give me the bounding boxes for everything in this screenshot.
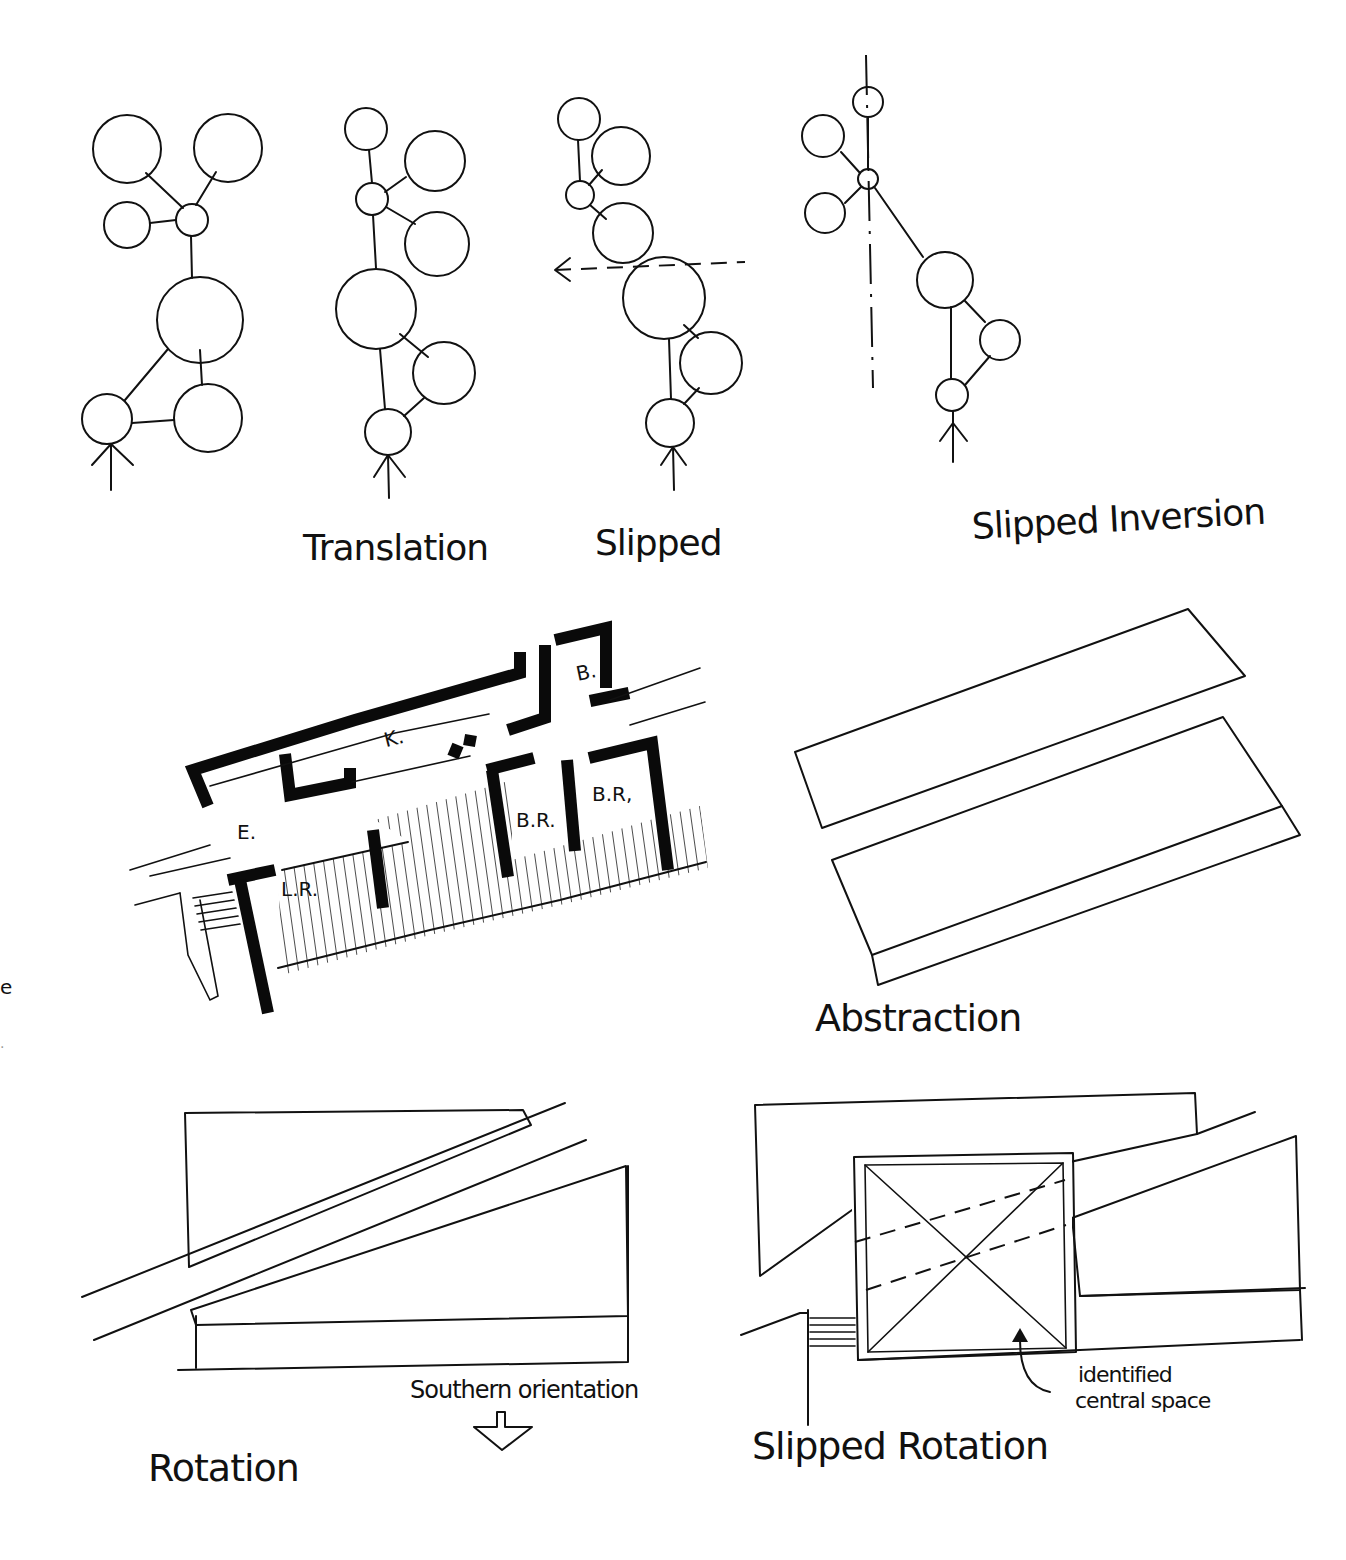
floor-plan <box>130 628 708 1013</box>
room-bedroom-2: B.R, <box>592 782 632 806</box>
bubble-diagram-translation <box>336 108 475 498</box>
bubble-diagram-slipped <box>555 98 745 490</box>
margin-fragment-1: e <box>0 975 11 999</box>
bubble-diagram-slipped-inversion <box>802 55 1020 462</box>
sketch-sheet <box>0 0 1346 1560</box>
label-slipped: Slipped <box>595 522 722 563</box>
annotation-southern-orientation: Southern orientation <box>410 1376 638 1404</box>
label-translation: Translation <box>303 527 488 568</box>
slipped-rotation-diagram <box>741 1093 1305 1425</box>
annotation-identified: identified <box>1078 1362 1172 1387</box>
label-slipped-rotation: Slipped Rotation <box>752 1424 1048 1468</box>
room-entry: E. <box>237 820 256 844</box>
margin-fragment-2: . <box>0 1035 3 1051</box>
room-living: L.R. <box>281 877 318 901</box>
label-rotation: Rotation <box>148 1446 299 1490</box>
label-abstraction: Abstraction <box>815 996 1021 1040</box>
abstraction-diagram <box>795 609 1300 985</box>
annotation-central-space: central space <box>1075 1388 1210 1413</box>
bubble-diagram-original <box>82 114 262 490</box>
room-bedroom-1: B.R. <box>516 808 556 832</box>
